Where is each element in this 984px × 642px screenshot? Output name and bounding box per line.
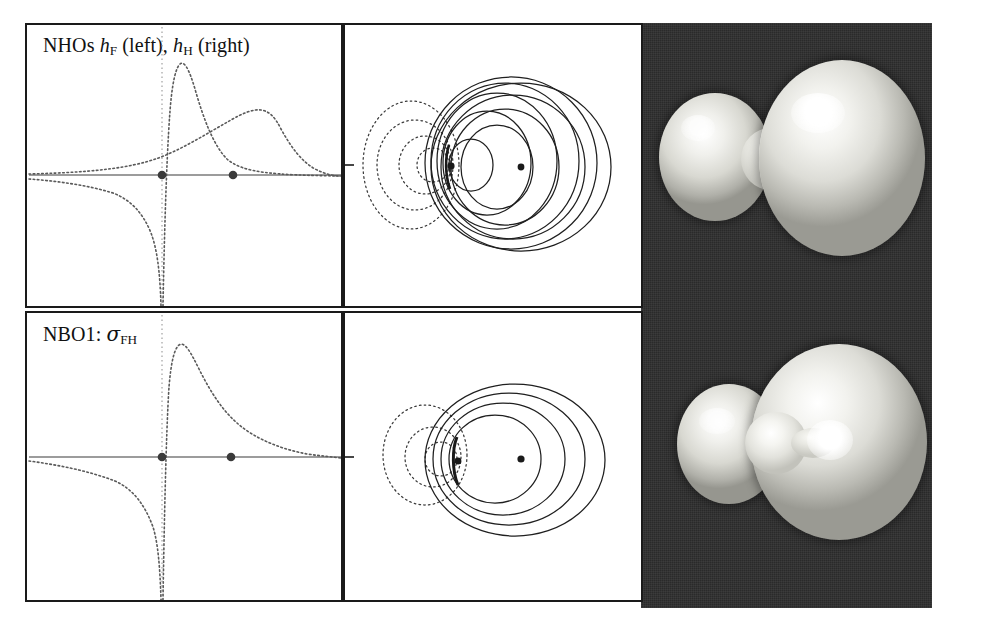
- nho-surface-render: [641, 23, 932, 315]
- nbo-profile-panel: NBO1: σFH: [25, 311, 343, 602]
- nbo-contour-nucleus-f: [455, 458, 462, 465]
- nbo-curve-negative: [29, 461, 161, 600]
- nho-left-highlight: [681, 115, 715, 141]
- nho-specular-highlight: [791, 93, 845, 133]
- nho-nucleus-marker-h: [229, 171, 238, 180]
- surface-render-column: [641, 23, 932, 608]
- nbo-contour-nucleus-h: [517, 455, 524, 462]
- nbo-nucleus-marker-f: [158, 453, 167, 462]
- nho-hh-curve: [29, 110, 341, 176]
- nbo-left-highlight: [699, 408, 735, 434]
- nbo-contour-panel: [343, 311, 643, 602]
- nho-hf-curve: [29, 179, 161, 306]
- nho-profile-panel: NHOs hF (left), hH (right): [25, 23, 343, 308]
- nho-contour-nucleus-f: [447, 162, 454, 169]
- nbo-specular-highlight: [807, 420, 853, 460]
- nho-contour-panel: [343, 23, 643, 308]
- nho-nucleus-marker-f: [158, 171, 167, 180]
- nbo-profile-plot: [27, 313, 341, 600]
- nbo-curve-positive: [163, 344, 341, 600]
- nho-right-lobe: [759, 60, 925, 256]
- nho-hf-curve-positive: [163, 63, 341, 306]
- orbital-analysis-figure: NHOs hF (left), hH (right): [0, 0, 984, 642]
- nho-negative-contours: [363, 101, 459, 229]
- nbo-surface-render: [641, 316, 932, 608]
- nbo-contour-plot: [345, 313, 641, 600]
- nho-profile-plot: [27, 25, 341, 306]
- nbo-nucleus-marker-h: [227, 453, 236, 462]
- nho-contour-plot: [345, 25, 641, 306]
- nho-contour-nucleus-h: [518, 164, 525, 171]
